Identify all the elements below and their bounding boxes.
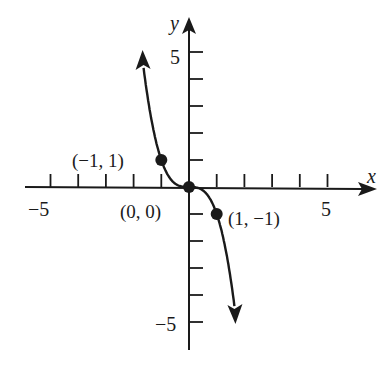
- data-point: [183, 181, 195, 193]
- function-graph: x y −5 5 5 −5 (−1, 1) (0, 0) (1, −1): [0, 0, 389, 380]
- x-tick-label-neg5: −5: [28, 198, 49, 220]
- data-point: [155, 154, 167, 166]
- point-label-1-neg1: (1, −1): [228, 208, 280, 230]
- curve-top-arrow-icon: [136, 50, 151, 70]
- y-tick-label-neg5: −5: [155, 313, 176, 335]
- point-label-neg1-1: (−1, 1): [72, 150, 124, 172]
- y-axis-label: y: [168, 12, 179, 35]
- y-tick-label-5: 5: [170, 46, 180, 68]
- x-axis: [25, 174, 377, 196]
- curve-bottom-arrow-icon: [227, 304, 242, 324]
- data-point: [211, 208, 223, 220]
- point-label-origin: (0, 0): [120, 201, 161, 223]
- x-axis-label: x: [366, 165, 376, 187]
- x-tick-label-5: 5: [321, 198, 331, 220]
